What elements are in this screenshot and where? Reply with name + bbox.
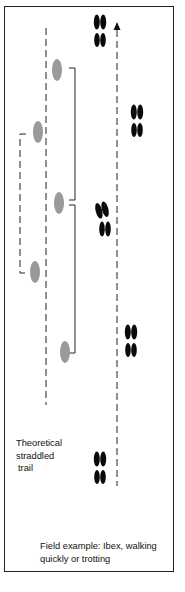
right-stride-bracket-lower — [69, 205, 75, 353]
label-line: Field example: Ibex, walking — [40, 540, 172, 553]
trail-diagram — [0, 0, 185, 592]
label-line: straddled — [16, 450, 86, 463]
right-stride-bracket-upper — [69, 68, 75, 200]
theoretical-print — [33, 121, 43, 143]
label-line: quickly or trotting — [40, 553, 172, 566]
left-stride-bracket — [20, 134, 26, 273]
theoretical-print — [60, 341, 70, 363]
hoofprint-icon — [125, 325, 137, 358]
theoretical-prints — [30, 59, 70, 363]
field-hoofprints — [94, 15, 143, 485]
theoretical-print — [30, 261, 40, 283]
theoretical-print — [54, 192, 64, 214]
theoretical-trail-label: Theoretical straddled trail — [16, 437, 86, 475]
hoofprint-icon — [131, 105, 143, 138]
hoofprint-icon — [94, 15, 106, 48]
label-line: Theoretical — [16, 437, 86, 450]
label-line: trail — [16, 462, 86, 475]
hoofprint-icon — [94, 452, 106, 485]
arrow-up-icon — [114, 22, 121, 30]
theoretical-print — [52, 59, 62, 81]
field-example-label: Field example: Ibex, walking quickly or … — [40, 540, 172, 565]
